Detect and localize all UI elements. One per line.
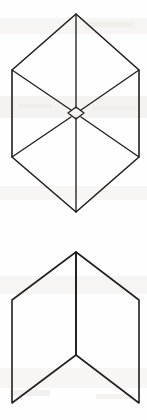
hexagon-diagonal-upper-right (81, 70, 139, 110)
figure-sheet (0, 0, 147, 420)
hexagon-diagonal-lower-left (12, 117, 71, 157)
figure-chevron (12, 252, 139, 403)
figure-hexagon-cube (12, 14, 139, 212)
hexagon-diagonal-upper-left (12, 70, 71, 110)
hexagon-diagonal-lower-right (81, 117, 139, 157)
chevron-left-panel (12, 252, 76, 403)
line-drawing-canvas (0, 0, 147, 420)
chevron-right-panel (76, 252, 139, 403)
